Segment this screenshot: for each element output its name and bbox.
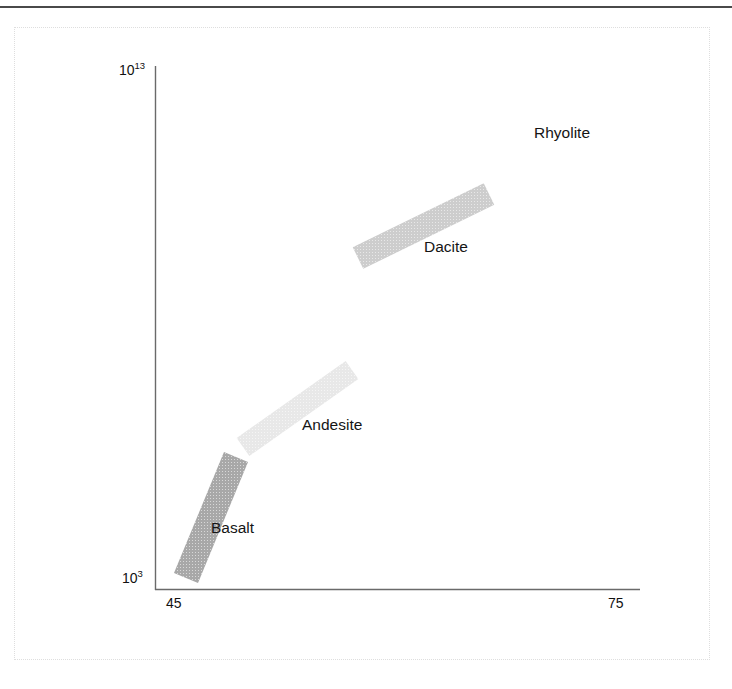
label-andesite: Andesite	[302, 416, 362, 434]
label-basalt: Basalt	[211, 519, 254, 537]
x-axis-right-tick-label: 75	[608, 595, 624, 611]
band-andesite	[243, 370, 352, 447]
plot-area	[0, 0, 732, 689]
x-axis-left-tick-label: 45	[166, 595, 182, 611]
label-rhyolite: Rhyolite	[534, 124, 590, 142]
y-axis-top-tick-label: 1013	[119, 62, 145, 78]
band-basalt	[186, 457, 236, 578]
figure-page: 1013 103 45 75 Rhyolite Dacite Andesite …	[0, 0, 732, 689]
label-dacite: Dacite	[424, 238, 468, 256]
y-axis-bottom-tick-label: 103	[122, 570, 143, 586]
